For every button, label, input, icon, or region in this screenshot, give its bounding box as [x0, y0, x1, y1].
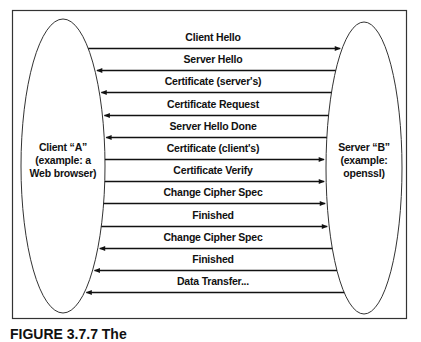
message-label: Finished [192, 209, 234, 221]
client-label-line-1: Client “A” [39, 141, 87, 153]
message-label: Data Transfer... [177, 275, 249, 287]
client-label-line-2: (example: a [35, 154, 91, 166]
message-label: Change Cipher Spec [163, 231, 262, 243]
message-label: Certificate Verify [173, 164, 253, 176]
message-label: Server Hello [184, 53, 243, 65]
message-label: Certificate Request [167, 98, 260, 110]
message-label: Change Cipher Spec [163, 186, 262, 198]
server-label: Server “B” (example: openssl) [338, 141, 390, 179]
server-label-line-1: Server “B” [338, 141, 390, 153]
server-label-line-2: (example: [340, 154, 387, 166]
message-label: Finished [192, 253, 234, 265]
message-label: Certificate (server's) [165, 75, 262, 87]
message-label: Server Hello Done [169, 120, 256, 132]
server-label-line-3: openssl) [343, 167, 385, 179]
figure-caption: FIGURE 3.7.7 The [10, 326, 127, 342]
message-label: Client Hello [185, 31, 240, 43]
message-label: Certificate (client's) [167, 142, 260, 154]
client-label: Client “A” (example: a Web browser) [30, 141, 97, 179]
client-label-line-3: Web browser) [30, 167, 97, 179]
